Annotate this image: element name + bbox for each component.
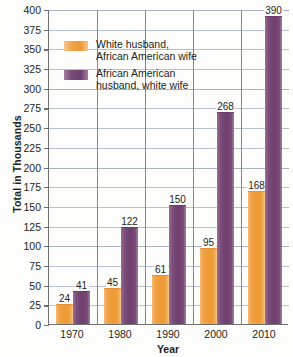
y-tick-label: 150 bbox=[1, 201, 41, 213]
y-tick-label: 100 bbox=[1, 240, 41, 252]
legend-item-african-american-husband: African American husband, white wife bbox=[64, 68, 214, 91]
y-tick-label: 350 bbox=[1, 43, 41, 55]
x-tick-label: 1990 bbox=[156, 328, 179, 340]
bar-value-label: 150 bbox=[168, 194, 188, 205]
y-tick-label: 25 bbox=[1, 299, 41, 311]
y-tick-label: 400 bbox=[1, 4, 41, 16]
bar bbox=[104, 288, 121, 324]
bar-value-label: 41 bbox=[74, 280, 88, 291]
y-tick-label: 50 bbox=[1, 280, 41, 292]
bar bbox=[217, 112, 234, 324]
legend-swatch-icon-purple bbox=[64, 70, 88, 80]
legend-swatch-icon-orange bbox=[64, 41, 88, 51]
bar bbox=[169, 205, 186, 324]
legend-label: White husband, African American wife bbox=[96, 39, 197, 62]
y-tick-mark bbox=[44, 325, 49, 326]
gridline bbox=[49, 108, 289, 109]
bar-value-label: 61 bbox=[153, 264, 167, 275]
y-tick-label: 0 bbox=[1, 319, 41, 331]
x-axis-title: Year bbox=[48, 343, 288, 355]
y-tick-mark bbox=[44, 305, 49, 306]
bar bbox=[265, 16, 282, 324]
x-tick-label: 1980 bbox=[108, 328, 131, 340]
bar-value-label: 122 bbox=[120, 216, 140, 227]
y-tick-mark bbox=[44, 49, 49, 50]
bar-value-label: 168 bbox=[247, 180, 267, 191]
y-tick-mark bbox=[44, 10, 49, 11]
gridline bbox=[49, 30, 289, 31]
bar-value-label: 45 bbox=[105, 277, 119, 288]
gridline bbox=[49, 128, 289, 129]
bar-value-label: 24 bbox=[57, 293, 71, 304]
y-tick-mark bbox=[44, 286, 49, 287]
y-tick-label: 125 bbox=[1, 221, 41, 233]
y-tick-mark bbox=[44, 108, 49, 109]
y-tick-label: 325 bbox=[1, 63, 41, 75]
y-tick-label: 75 bbox=[1, 260, 41, 272]
bar-value-label: 268 bbox=[216, 101, 236, 112]
y-tick-mark bbox=[44, 207, 49, 208]
y-tick-mark bbox=[44, 148, 49, 149]
x-tick-label: 1970 bbox=[60, 328, 83, 340]
bar bbox=[56, 304, 73, 324]
bar bbox=[200, 248, 217, 324]
y-tick-mark bbox=[44, 69, 49, 70]
bar-value-label: 390 bbox=[264, 5, 284, 16]
bar-chart: Total in Thousands 244145122611509526816… bbox=[0, 0, 293, 357]
gridline bbox=[49, 148, 289, 149]
y-tick-mark bbox=[44, 246, 49, 247]
legend-label: African American husband, white wife bbox=[96, 68, 188, 91]
y-tick-mark bbox=[44, 168, 49, 169]
y-tick-label: 300 bbox=[1, 83, 41, 95]
bar bbox=[152, 275, 169, 324]
y-tick-label: 200 bbox=[1, 162, 41, 174]
y-tick-label: 375 bbox=[1, 24, 41, 36]
gridline bbox=[49, 10, 289, 11]
y-tick-mark bbox=[44, 227, 49, 228]
y-tick-mark bbox=[44, 266, 49, 267]
y-tick-label: 250 bbox=[1, 122, 41, 134]
bar bbox=[121, 227, 138, 324]
y-tick-label: 225 bbox=[1, 142, 41, 154]
x-tick-label: 2000 bbox=[204, 328, 227, 340]
y-tick-label: 275 bbox=[1, 102, 41, 114]
y-tick-mark bbox=[44, 89, 49, 90]
legend-item-white-husband: White husband, African American wife bbox=[64, 39, 214, 62]
y-tick-mark bbox=[44, 30, 49, 31]
bar-value-label: 95 bbox=[201, 237, 215, 248]
bar bbox=[248, 191, 265, 324]
gridline bbox=[49, 168, 289, 169]
bar bbox=[73, 291, 90, 324]
y-tick-mark bbox=[44, 128, 49, 129]
y-tick-label: 175 bbox=[1, 181, 41, 193]
group-separator bbox=[241, 10, 242, 325]
y-tick-mark bbox=[44, 187, 49, 188]
x-tick-label: 2010 bbox=[252, 328, 275, 340]
chart-legend: White husband, African American wife Afr… bbox=[64, 39, 214, 97]
